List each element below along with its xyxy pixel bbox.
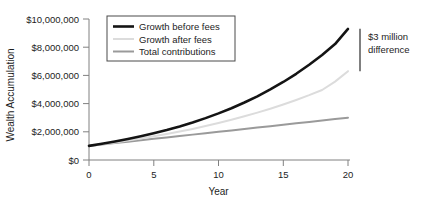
legend-label-growth-after-fees: Growth after fees — [139, 34, 212, 45]
y-tick-label-10m: $10,000,000 — [26, 14, 79, 25]
y-tick-label-8m: $8,000,000 — [31, 42, 79, 53]
legend-label-total-contributions: Total contributions — [139, 46, 216, 57]
legend: Growth before fees Growth after fees Tot… — [107, 16, 235, 61]
y-tick-label-2m: $2,000,000 — [31, 126, 79, 137]
series-line-growth-after-fees — [89, 71, 348, 146]
difference-annotation: $3 million difference — [360, 29, 410, 71]
x-tick-label-5: 5 — [151, 169, 156, 180]
y-tick-label-0: $0 — [68, 155, 79, 166]
chart-canvas: Wealth Accumulation $10,000,000 $8,000,0… — [0, 0, 425, 203]
y-tick-label-6m: $6,000,000 — [31, 70, 79, 81]
x-tick-label-20: 20 — [343, 169, 354, 180]
difference-label-line2: difference — [368, 44, 410, 55]
x-axis-title: Year — [208, 186, 229, 197]
x-tick-label-15: 15 — [278, 169, 289, 180]
series-line-total-contributions — [89, 118, 348, 146]
y-tick-label-4m: $4,000,000 — [31, 98, 79, 109]
x-tick-label-10: 10 — [213, 169, 224, 180]
x-tick-label-0: 0 — [86, 169, 91, 180]
wealth-accumulation-chart: Wealth Accumulation $10,000,000 $8,000,0… — [0, 0, 425, 203]
legend-label-growth-before-fees: Growth before fees — [139, 21, 220, 32]
y-axis-title: Wealth Accumulation — [5, 48, 16, 141]
difference-label-line1: $3 million — [368, 31, 408, 42]
